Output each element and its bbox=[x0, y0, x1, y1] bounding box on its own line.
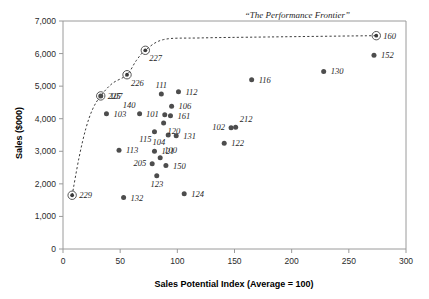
data-point-150 bbox=[163, 163, 168, 168]
data-point-140 bbox=[137, 111, 142, 116]
y-tick-label: 6,000 bbox=[35, 49, 57, 59]
point-label-150: 150 bbox=[173, 161, 187, 171]
data-point-103 bbox=[104, 111, 109, 116]
point-label-226: 226 bbox=[131, 78, 145, 88]
data-point-106 bbox=[169, 104, 174, 109]
data-point-123 bbox=[154, 173, 159, 178]
point-label-116: 116 bbox=[259, 75, 272, 85]
point-label-112: 112 bbox=[185, 87, 198, 97]
point-label-152: 152 bbox=[381, 50, 395, 60]
point-label-123: 123 bbox=[150, 179, 163, 189]
point-label-160: 160 bbox=[383, 31, 397, 41]
point-label-130: 130 bbox=[331, 66, 345, 76]
data-point-113 bbox=[117, 148, 122, 153]
data-point-152 bbox=[371, 53, 376, 58]
data-point-124 bbox=[182, 191, 187, 196]
x-tick-label: 100 bbox=[170, 256, 184, 266]
y-tick-label: 4,000 bbox=[35, 114, 57, 124]
data-point-111 bbox=[159, 91, 164, 96]
x-tick-label: 0 bbox=[61, 256, 66, 266]
data-point-122 bbox=[222, 141, 227, 146]
point-label-103: 103 bbox=[113, 109, 126, 119]
x-axis-title: Sales Potential Index (Average = 100) bbox=[155, 279, 314, 289]
point-label-140: 140 bbox=[123, 100, 137, 110]
x-tick-label: 200 bbox=[285, 256, 299, 266]
data-point-107 bbox=[98, 93, 103, 98]
point-label-229: 229 bbox=[79, 190, 93, 200]
point-label-111: 111 bbox=[156, 80, 168, 90]
point-label-212: 212 bbox=[240, 114, 254, 124]
point-label-107: 107 bbox=[110, 91, 124, 101]
point-label-120: 120 bbox=[168, 126, 182, 136]
annotation-performance-frontier: “The Performance Frontier” bbox=[245, 10, 350, 20]
frontier-marker-226 bbox=[125, 73, 129, 77]
point-label-115: 115 bbox=[139, 134, 151, 144]
y-tick-label: 7,000 bbox=[35, 16, 57, 26]
data-point-132 bbox=[121, 195, 126, 200]
data-point-121 bbox=[152, 149, 157, 154]
x-tick-label: 150 bbox=[227, 256, 241, 266]
data-point-101 bbox=[162, 112, 167, 117]
y-tick-label: 3,000 bbox=[35, 146, 57, 156]
y-tick-label: 0 bbox=[51, 244, 56, 254]
x-tick-label: 250 bbox=[342, 256, 356, 266]
data-point-labels: 2292252262271601071031401111121061011611… bbox=[79, 31, 397, 203]
point-label-101: 101 bbox=[146, 109, 159, 119]
chart-annotations: “The Performance Frontier” bbox=[245, 10, 350, 20]
frontier-marker-227 bbox=[143, 48, 147, 52]
point-label-132: 132 bbox=[131, 193, 145, 203]
y-tick-label: 5,000 bbox=[35, 81, 57, 91]
data-point-212 bbox=[233, 125, 238, 130]
axes bbox=[63, 21, 406, 249]
point-label-100: 100 bbox=[164, 145, 178, 155]
data-point-120 bbox=[161, 120, 166, 125]
y-tick-label: 1,000 bbox=[35, 211, 57, 221]
y-axis-title: Sales ($000) bbox=[14, 107, 24, 159]
y-axis-ticks: 01,0002,0003,0004,0005,0006,0007,000 bbox=[35, 16, 63, 254]
x-axis-ticks: 050100150200250300 bbox=[61, 249, 414, 266]
point-label-205: 205 bbox=[133, 158, 146, 168]
point-label-122: 122 bbox=[231, 138, 245, 148]
point-label-131: 131 bbox=[183, 131, 196, 141]
point-label-161: 161 bbox=[177, 111, 190, 121]
data-point-112 bbox=[176, 89, 181, 94]
point-label-124: 124 bbox=[191, 189, 205, 199]
x-tick-label: 300 bbox=[399, 256, 413, 266]
data-point-116 bbox=[249, 77, 254, 82]
data-point-115 bbox=[152, 129, 157, 134]
scatter-chart: 01,0002,0003,0004,0005,0006,0007,000 050… bbox=[0, 0, 429, 299]
data-point-130 bbox=[321, 69, 326, 74]
chart-canvas: 01,0002,0003,0004,0005,0006,0007,000 050… bbox=[0, 0, 429, 299]
plot-frame bbox=[63, 21, 406, 249]
frontier-marker-160 bbox=[374, 34, 378, 38]
point-label-227: 227 bbox=[149, 53, 163, 63]
frontier-marker-229 bbox=[70, 193, 74, 197]
y-tick-label: 2,000 bbox=[35, 179, 57, 189]
data-point-102 bbox=[229, 125, 234, 130]
data-point-205 bbox=[150, 161, 155, 166]
x-tick-label: 50 bbox=[115, 256, 125, 266]
point-label-113: 113 bbox=[126, 145, 138, 155]
point-label-102: 102 bbox=[212, 122, 226, 132]
data-point-161 bbox=[168, 113, 173, 118]
